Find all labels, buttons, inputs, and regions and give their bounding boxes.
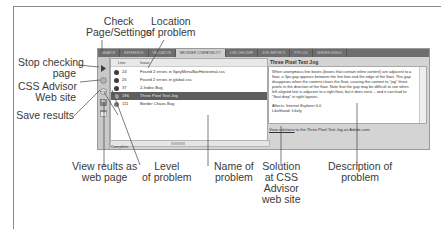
- callout-description-of-problem: Description of problem: [328, 161, 392, 183]
- callout-stop-checking: Stop checking page: [18, 57, 76, 79]
- callout-solution-css-advisor: Solution at CSS Advisor web site: [262, 161, 301, 205]
- callout-name-of-problem: Name of problem: [214, 161, 254, 183]
- callout-save-results: Save results: [14, 110, 74, 121]
- callout-level-of-problem: Level of problem: [142, 161, 192, 183]
- callout-view-results-web-page: View reults as web page: [72, 161, 137, 183]
- callout-css-advisor: CSS Advisor Web site: [18, 81, 76, 103]
- callout-check-page-settings: Check Page/Settings: [86, 16, 151, 38]
- callout-location-of-problem: Location of problem: [146, 16, 196, 38]
